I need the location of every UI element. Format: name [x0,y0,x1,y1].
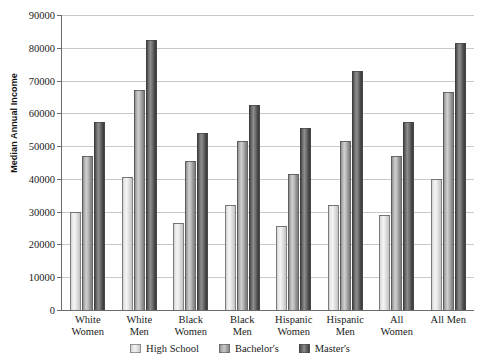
legend-item-ba[interactable]: Bachelor's [219,343,279,354]
bar-ba [288,174,299,310]
y-axis-title: Median Annual Income [9,53,19,193]
plot-area: 9000080000700006000050000400003000020000… [62,15,474,310]
bar-ba [391,156,402,310]
bar-group [320,15,372,310]
x-axis-line [61,310,474,311]
y-axis-tick-label: 50000 [29,141,55,152]
x-axis-label: WhiteMen [114,314,166,337]
bar-ma [455,43,466,310]
bar-group [371,15,423,310]
bar-hs [70,212,81,310]
bar-ba [340,141,351,310]
bar-ba [443,92,454,310]
bar-hs [173,223,184,310]
bar-chart: Median Annual Income 9000080000700006000… [0,0,480,364]
legend-swatch-icon [219,344,230,353]
bar-ma [197,133,208,310]
bar-ma [300,128,311,310]
bar-ba [237,141,248,310]
legend-label: Master's [315,343,350,354]
x-axis-label: AllWomen [371,314,423,337]
bar-group [268,15,320,310]
y-axis-tick-label: 90000 [29,10,55,21]
legend-swatch-icon [299,344,310,353]
bar-ma [146,40,157,310]
legend-item-ma[interactable]: Master's [299,343,350,354]
bar-ba [134,90,145,310]
y-axis-tick-label: 30000 [29,206,55,217]
y-axis-tick-label: 20000 [29,239,55,250]
bar-group [114,15,166,310]
bar-hs [431,179,442,310]
x-axis-label: BlackWomen [165,314,217,337]
x-axis-label: BlackMen [217,314,269,337]
y-axis-tick [57,310,62,311]
x-axis-label: HispanicWomen [268,314,320,337]
bar-group [62,15,114,310]
x-axis-label: WhiteWomen [62,314,114,337]
bar-hs [328,205,339,310]
y-axis-tick-label: 60000 [29,108,55,119]
y-axis-tick-label: 10000 [29,272,55,283]
bar-ba [82,156,93,310]
bar-hs [379,215,390,310]
y-axis-tick-label: 40000 [29,173,55,184]
y-axis-tick-label: 80000 [29,42,55,53]
bar-ba [185,161,196,310]
y-axis-tick-label: 70000 [29,75,55,86]
bar-group [423,15,475,310]
bar-group [165,15,217,310]
chart-legend: High SchoolBachelor'sMaster's [0,343,480,354]
bar-hs [276,226,287,310]
x-axis-label: All Men [423,314,475,337]
y-axis-tick-label: 0 [50,305,55,316]
bar-hs [122,177,133,310]
bar-groups [62,15,474,310]
x-axis-label: HispanicMen [320,314,372,337]
bar-ma [352,71,363,310]
bar-ma [94,122,105,310]
bar-ma [249,105,260,310]
legend-swatch-icon [130,344,141,353]
legend-item-hs[interactable]: High School [130,343,199,354]
legend-label: Bachelor's [235,343,279,354]
bar-ma [403,122,414,310]
bar-group [217,15,269,310]
x-axis-labels: WhiteWomenWhiteMenBlackWomenBlackMenHisp… [62,314,474,337]
legend-label: High School [146,343,199,354]
bar-hs [225,205,236,310]
